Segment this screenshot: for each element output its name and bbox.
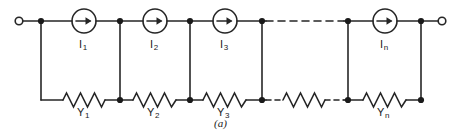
- node-dot-bottom-6: [418, 97, 424, 103]
- source-label-i3: I3: [220, 38, 228, 50]
- node-dot-top-1: [38, 18, 44, 24]
- node-dot-bottom-4: [259, 97, 265, 103]
- node-dot-top-6: [418, 18, 424, 24]
- node-dot-bottom-5: [345, 97, 351, 103]
- admittance-label-yn: Yn: [377, 106, 389, 118]
- node-dot-top-3: [187, 18, 193, 24]
- admittance-symbol-y2: [133, 93, 176, 107]
- node-dot-bottom-2: [117, 97, 123, 103]
- admittance-symbol-yn: [363, 93, 406, 107]
- admittance-symbol-y1: [63, 93, 105, 107]
- node-dot-top-5: [345, 18, 351, 24]
- right-terminal-icon: [438, 17, 446, 25]
- source-label-in: In: [380, 38, 388, 50]
- source-label-i1: I1: [79, 38, 87, 50]
- current-source-arrow-head-i1: [86, 17, 92, 24]
- circuit-figure: I1 I2 I3 In Y1 Y2 Y3 Yn (a): [0, 0, 461, 137]
- admittance-label-y1: Y1: [77, 106, 89, 118]
- source-label-i2: I2: [150, 38, 158, 50]
- current-source-arrow-head-in: [387, 17, 393, 24]
- node-dot-top-2: [117, 18, 123, 24]
- current-source-arrow-head-i3: [227, 17, 233, 24]
- current-source-arrow-head-i2: [157, 17, 163, 24]
- admittance-symbol-y3: [203, 93, 246, 107]
- node-dot-top-4: [259, 18, 265, 24]
- circuit-diagram-canvas: [0, 0, 461, 137]
- admittance-symbol-ymid: [283, 93, 325, 107]
- admittance-label-y2: Y2: [147, 106, 159, 118]
- node-dot-bottom-3: [187, 97, 193, 103]
- figure-caption: (a): [214, 117, 227, 129]
- left-terminal-icon: [15, 17, 23, 25]
